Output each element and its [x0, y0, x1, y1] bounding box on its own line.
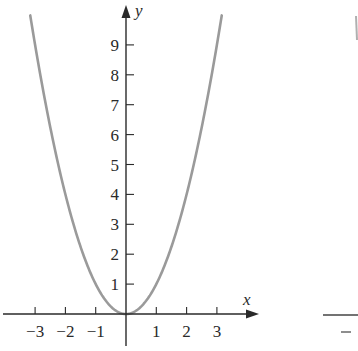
- x-tick-label: 3: [213, 322, 222, 341]
- partial-curve: [356, 16, 357, 40]
- y-tick-label: 6: [111, 126, 120, 145]
- y-tick-label: 2: [111, 245, 120, 264]
- x-axis-label: x: [242, 290, 251, 309]
- y-tick-label: 9: [111, 36, 120, 55]
- x-tick-label: −3: [26, 322, 44, 341]
- x-tick-label: 1: [152, 322, 161, 341]
- x-tick-label: 2: [182, 322, 191, 341]
- y-tick-label: 5: [111, 156, 120, 175]
- axes: [3, 5, 259, 346]
- x-tick-label: −2: [56, 322, 74, 341]
- y-tick-label: 7: [111, 96, 120, 115]
- tick-labels: −3−2−1123123456789: [26, 36, 221, 341]
- y-tick-label: 8: [111, 66, 120, 85]
- y-axis-arrow-icon: [122, 5, 131, 18]
- y-tick-label: 1: [111, 275, 120, 294]
- y-tick-label: 3: [111, 215, 120, 234]
- y-axis-label: y: [133, 1, 143, 20]
- parabola-chart: −3−2−1123123456789 x y: [0, 0, 358, 351]
- x-tick-label: −1: [87, 322, 105, 341]
- partial-second-chart: [323, 16, 358, 332]
- x-axis-arrow-icon: [246, 310, 259, 319]
- y-tick-label: 4: [111, 185, 120, 204]
